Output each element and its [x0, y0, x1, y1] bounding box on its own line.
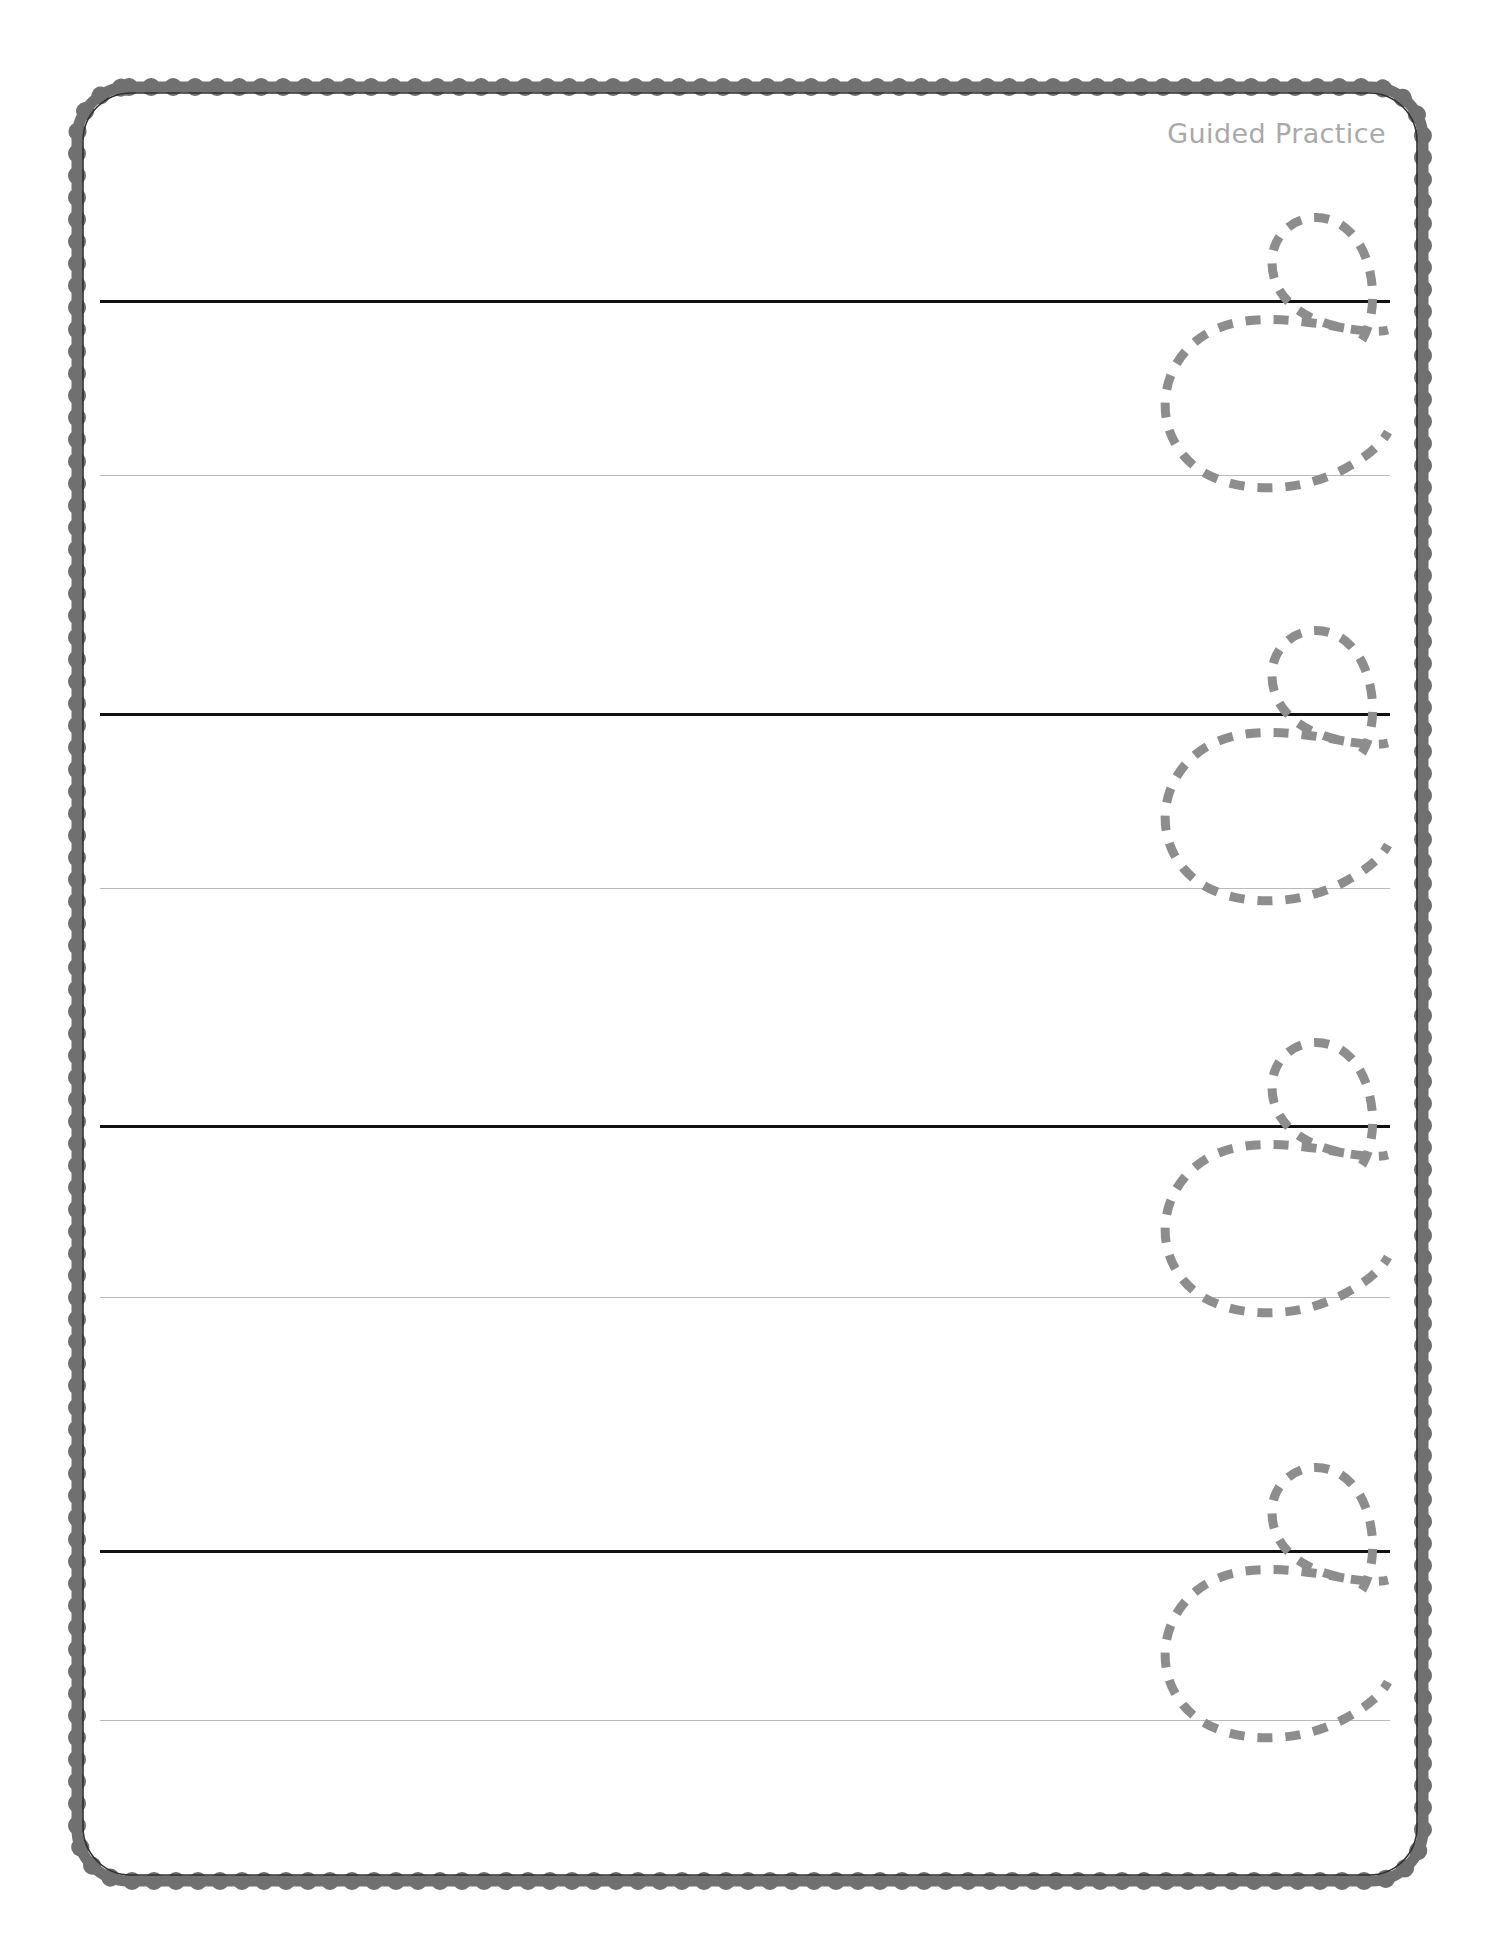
- border-inner-rule: [83, 93, 1417, 1875]
- baseline-rule: [100, 1720, 1390, 1721]
- baseline-rule: [100, 888, 1390, 889]
- trace-letter-c: [1130, 593, 1390, 923]
- trace-letter-c: [1130, 1005, 1390, 1335]
- baseline-rule: [100, 1297, 1390, 1298]
- trace-letter-c: [1130, 180, 1390, 510]
- midline-rule: [100, 1125, 1390, 1128]
- page-title: Guided Practice: [1167, 118, 1386, 149]
- midline-rule: [100, 713, 1390, 716]
- worksheet-page: Guided Practice: [0, 0, 1498, 1948]
- practice-row: [0, 0, 1498, 1]
- baseline-rule: [100, 475, 1390, 476]
- decorative-border-frame: [68, 78, 1432, 1890]
- border-band: [77, 87, 1423, 1881]
- midline-rule: [100, 1550, 1390, 1553]
- midline-rule: [100, 300, 1390, 303]
- border-scallop-dots: [77, 87, 1423, 1881]
- trace-letter-c: [1130, 1430, 1390, 1760]
